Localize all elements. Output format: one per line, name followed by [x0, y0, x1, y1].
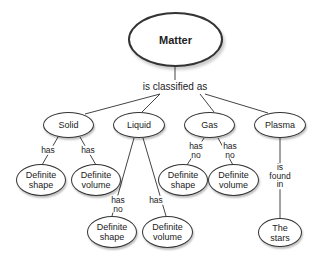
link-label-liquid-volume: has — [148, 196, 164, 205]
node-liquid: Liquid — [113, 112, 165, 138]
link-label-liquid-shape: has no — [110, 196, 126, 213]
node-plasma-the-stars: The stars — [258, 218, 302, 247]
node-gas-definite-volume: Definite volume — [208, 164, 259, 196]
node-gas: Gas — [184, 112, 235, 138]
link-label-gas-volume: has no — [222, 142, 238, 159]
node-gas-definite-shape: Definite shape — [158, 164, 208, 196]
link-label-solid-shape: has — [40, 146, 56, 155]
node-solid-definite-volume: Definite volume — [71, 164, 121, 196]
concept-map: Matter is classified as Solid Liquid Gas… — [0, 0, 322, 262]
node-liquid-definite-volume: Definite volume — [142, 216, 193, 248]
node-liquid-definite-shape: Definite shape — [87, 216, 137, 248]
link-label-solid-volume: has — [80, 146, 96, 155]
node-solid-definite-shape: Definite shape — [16, 164, 66, 196]
link-label-plasma-found-in: is found in — [268, 163, 291, 189]
node-plasma: Plasma — [254, 112, 306, 138]
link-label-gas-shape: has no — [188, 142, 204, 159]
link-label-is-classified-as: is classified as — [142, 82, 208, 92]
node-solid: Solid — [43, 112, 94, 138]
node-matter: Matter — [128, 12, 223, 67]
